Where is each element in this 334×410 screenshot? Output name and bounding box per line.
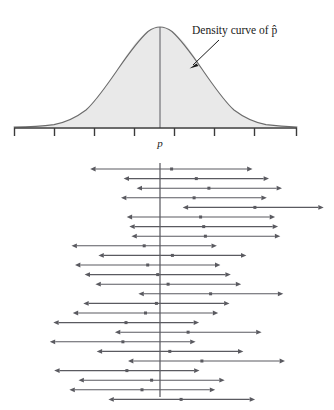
confidence-interval-row: [133, 360, 279, 363]
ci-center-estimate-dot: [187, 331, 190, 334]
ci-center-estimate-dot: [170, 168, 173, 171]
confidence-interval-row: [126, 196, 261, 199]
confidence-interval-row: [114, 398, 250, 401]
confidence-interval-row: [132, 216, 270, 219]
density-and-confidence-interval-figure: p Density curve of p̂: [0, 0, 334, 410]
confidence-interval-row: [90, 273, 225, 276]
ci-center-estimate-dot: [146, 264, 149, 267]
confidence-interval-row: [101, 283, 236, 286]
ci-center-estimate-dot: [144, 312, 147, 315]
ci-center-estimate-dot: [195, 177, 198, 180]
confidence-interval-row: [120, 331, 256, 334]
confidence-interval-row: [129, 177, 264, 180]
density-curve-annotation-label: Density curve of p̂: [192, 24, 278, 37]
ci-center-estimate-dot: [141, 388, 144, 391]
center-label-p: p: [156, 137, 163, 149]
ci-center-estimate-dot: [125, 321, 128, 324]
confidence-interval-row: [60, 369, 195, 372]
ci-center-estimate-dot: [150, 379, 153, 382]
confidence-interval-row: [104, 254, 241, 257]
ci-center-estimate-dot: [121, 340, 124, 343]
annotation-arrow-line: [193, 40, 219, 65]
confidence-interval-row: [77, 244, 212, 247]
confidence-interval-row: [142, 187, 277, 190]
confidence-interval-row: [102, 350, 238, 353]
ci-center-estimate-dot: [209, 292, 212, 295]
confidence-interval-row: [59, 321, 194, 324]
ci-center-estimate-dot: [143, 244, 146, 247]
ci-center-estimate-dot: [167, 283, 170, 286]
ci-center-estimate-dot: [156, 273, 159, 276]
ci-interval-layer: [55, 168, 318, 401]
density-curve-fill: [14, 27, 297, 127]
confidence-intervals-panel: [55, 163, 318, 401]
density-curve-panel: p Density curve of p̂: [14, 24, 297, 149]
ci-center-estimate-dot: [204, 235, 207, 238]
confidence-interval-row: [135, 225, 273, 228]
confidence-interval-row: [96, 168, 248, 171]
confidence-interval-row: [188, 206, 318, 209]
ci-center-estimate-dot: [202, 225, 205, 228]
ci-center-estimate-dot: [207, 187, 210, 190]
ci-center-estimate-dot: [199, 216, 202, 219]
confidence-interval-row: [144, 292, 278, 295]
confidence-interval-row: [55, 340, 190, 343]
ci-center-estimate-dot: [168, 350, 171, 353]
ci-center-estimate-dot: [180, 398, 183, 401]
confidence-interval-row: [78, 312, 213, 315]
ci-center-estimate-dot: [193, 196, 196, 199]
ci-center-estimate-dot: [155, 302, 158, 305]
confidence-interval-row: [75, 388, 210, 391]
ci-center-estimate-dot: [253, 206, 256, 209]
confidence-interval-row: [89, 302, 224, 305]
ci-center-estimate-dot: [200, 360, 203, 363]
density-axis-ticks: [15, 128, 297, 136]
confidence-interval-row: [84, 379, 219, 382]
confidence-interval-row: [137, 235, 275, 238]
ci-center-estimate-dot: [125, 369, 128, 372]
ci-center-estimate-dot: [171, 254, 174, 257]
confidence-interval-row: [80, 264, 215, 267]
